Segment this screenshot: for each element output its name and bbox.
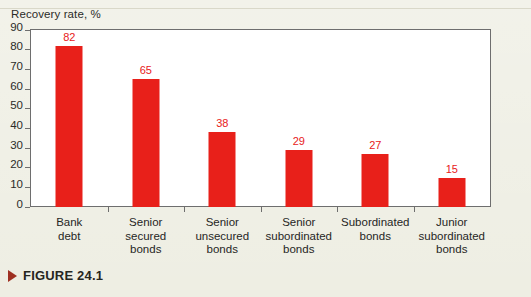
y-axis-tick-label: 80	[10, 41, 23, 53]
x-axis-category-label-line: subordinated	[419, 230, 486, 244]
x-axis-category-label: Juniorsubordinatedbonds	[419, 216, 486, 257]
x-axis-category-label-line: subordinated	[266, 230, 333, 244]
bar-group[interactable]: 15	[414, 30, 491, 207]
bar[interactable]	[209, 132, 236, 207]
x-axis-category-label-line: bonds	[195, 243, 249, 257]
x-axis-category-label-line: Bank	[56, 216, 82, 230]
y-axis-tick-mark	[25, 69, 30, 70]
x-axis-category-label-line: bonds	[419, 243, 486, 257]
x-axis-category-label-line: Senior	[125, 216, 166, 230]
x-axis-category-label: Subordinatedbonds	[341, 216, 409, 243]
bar-group[interactable]: 38	[184, 30, 261, 207]
y-axis-tick-label: 50	[10, 100, 23, 112]
y-axis-tick-label: 70	[10, 61, 23, 73]
bar-group[interactable]: 29	[261, 30, 338, 207]
x-axis-category-label-line: Junior	[419, 216, 486, 230]
x-axis-tick-mark	[261, 207, 262, 212]
y-axis-tick-label: 60	[10, 81, 23, 93]
x-axis-category-label-line: secured	[125, 230, 166, 244]
x-axis-category-label-line: bonds	[266, 243, 333, 257]
x-axis-tick-mark	[108, 207, 109, 212]
bar[interactable]	[132, 79, 159, 207]
y-axis-tick-mark	[25, 148, 30, 149]
y-axis-tick-mark	[25, 207, 30, 208]
bar-value-label: 38	[216, 118, 228, 129]
x-axis-tick-mark	[337, 207, 338, 212]
x-axis-category-label: Seniorunsecuredbonds	[195, 216, 249, 257]
bar[interactable]	[56, 46, 83, 207]
y-axis-tick-label: 10	[10, 179, 23, 191]
chart-axis-title: Recovery rate, %	[11, 8, 101, 20]
bar-value-label: 15	[446, 164, 458, 175]
triangle-right-icon	[8, 270, 17, 282]
y-axis-tick-mark	[25, 167, 30, 168]
y-axis-tick-mark	[25, 49, 30, 50]
bar-group[interactable]: 82	[31, 30, 108, 207]
x-axis-category-label-line: bonds	[125, 243, 166, 257]
figure-caption: FIGURE 24.1	[8, 268, 103, 283]
y-axis-tick-mark	[25, 89, 30, 90]
bar[interactable]	[285, 150, 312, 207]
bar-value-label: 82	[63, 32, 75, 43]
x-axis-category-label: Seniorsecuredbonds	[125, 216, 166, 257]
bar-group[interactable]: 27	[337, 30, 414, 207]
y-axis-tick-label: 90	[10, 22, 23, 34]
y-axis-tick-label: 40	[10, 120, 23, 132]
bar-value-label: 27	[369, 140, 381, 151]
y-axis-tick-mark	[25, 187, 30, 188]
bar-value-label: 65	[140, 65, 152, 76]
x-axis-tick-mark	[184, 207, 185, 212]
x-axis-category-label-line: Senior	[195, 216, 249, 230]
y-axis-tick-mark	[25, 30, 30, 31]
x-axis-category-label-line: unsecured	[195, 230, 249, 244]
y-axis-tick-label: 20	[10, 159, 23, 171]
bar[interactable]	[438, 178, 465, 208]
bar-value-label: 29	[293, 136, 305, 147]
x-axis-tick-mark	[414, 207, 415, 212]
bar[interactable]	[362, 154, 389, 207]
x-axis-category-label-line: Subordinated	[341, 216, 409, 230]
x-axis-category-label: Bankdebt	[56, 216, 82, 243]
y-axis-tick-label: 0	[17, 199, 23, 211]
x-axis-category-label-line: Senior	[266, 216, 333, 230]
y-axis: 0102030405060708090	[0, 29, 30, 207]
figure-page: Recovery rate, % 0102030405060708090 826…	[0, 0, 531, 297]
y-axis-tick-mark	[25, 128, 30, 129]
figure-caption-text: FIGURE 24.1	[23, 268, 103, 283]
plot-area: 826538292715	[31, 30, 490, 207]
x-axis-category-label-line: bonds	[341, 230, 409, 244]
x-axis: BankdebtSeniorsecuredbondsSeniorunsecure…	[31, 207, 490, 267]
x-axis-category-label: Seniorsubordinatedbonds	[266, 216, 333, 257]
y-axis-tick-mark	[25, 108, 30, 109]
y-axis-tick-label: 30	[10, 140, 23, 152]
x-axis-category-label-line: debt	[56, 230, 82, 244]
bar-group[interactable]: 65	[108, 30, 185, 207]
